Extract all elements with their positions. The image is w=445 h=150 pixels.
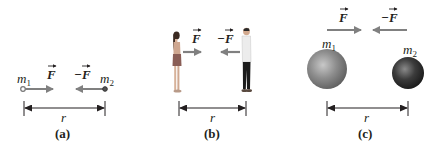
distance-label: r bbox=[61, 111, 66, 124]
mass1-label: m1 bbox=[17, 72, 31, 88]
mass2-label: m2 bbox=[100, 72, 114, 88]
caption-b: (b) bbox=[204, 127, 220, 140]
force-label: F bbox=[192, 32, 201, 45]
neg-force-label: −F bbox=[381, 11, 398, 24]
sphere-m1 bbox=[307, 49, 347, 89]
distance-label: r bbox=[210, 111, 215, 124]
distance-label: r bbox=[364, 111, 369, 124]
mass1-label: m1 bbox=[322, 37, 336, 53]
neg-force-label: −F bbox=[217, 32, 234, 45]
caption-c: (c) bbox=[358, 127, 372, 140]
mass2-label: m2 bbox=[403, 43, 417, 59]
force-label: F bbox=[339, 11, 348, 24]
man-figure bbox=[242, 28, 253, 92]
panel-c-graphics bbox=[307, 9, 424, 116]
caption-a: (a) bbox=[55, 127, 70, 140]
panel-b-graphics bbox=[173, 28, 253, 116]
panel-a-graphics bbox=[21, 66, 108, 116]
force-label: F bbox=[47, 68, 56, 81]
neg-force-label: −F bbox=[74, 68, 91, 81]
woman-figure bbox=[173, 32, 182, 93]
sphere-m2 bbox=[392, 57, 424, 89]
